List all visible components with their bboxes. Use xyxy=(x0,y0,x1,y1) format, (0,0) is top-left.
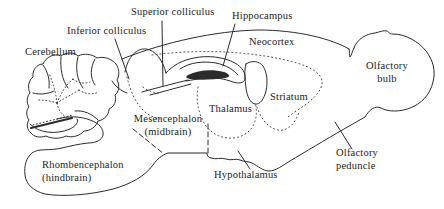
cerebellum-fold-line-1 xyxy=(61,57,68,88)
striatum-outline xyxy=(245,62,267,105)
cerebellum-fold-line-3 xyxy=(91,59,95,85)
colliculus-bump-outline xyxy=(125,49,166,73)
leader-line-hippocampus xyxy=(223,24,235,66)
label-rhombencephalon: Rhombencephalon(hindbrain) xyxy=(42,159,124,184)
label-striatum: Striatum xyxy=(270,91,308,104)
leader-line-superior-colliculus xyxy=(162,21,163,86)
label-inferior-colliculus: Inferior colliculus xyxy=(67,25,146,38)
cerebellum-arbor-dotted-7 xyxy=(57,103,66,117)
cerebellum-arbor-dotted-6 xyxy=(38,100,57,103)
cerebellum-arbor-dotted-4 xyxy=(73,79,90,83)
fornix-line-lower xyxy=(150,84,191,95)
cerebellum-fold-line-5 xyxy=(33,91,54,94)
fornix-line-upper xyxy=(142,80,188,92)
label-olfactory-bulb: Olfactorybulb xyxy=(361,60,413,85)
label-olfactory-peduncle: Olfactorypeduncle xyxy=(336,147,378,172)
label-cerebellum: Cerebellum xyxy=(25,46,76,59)
label-hypothalamus: Hypothalamus xyxy=(214,169,278,182)
cerebellum-dark-stroke xyxy=(31,118,72,128)
cortex-bulb-notch xyxy=(349,48,354,57)
label-superior-colliculus: Superior colliculus xyxy=(131,6,214,19)
cerebellar-peduncle-line xyxy=(112,81,127,93)
cerebellum-fold-line-4 xyxy=(43,65,49,88)
hypothalamus-dotted-boundary xyxy=(257,107,299,130)
label-hippocampus: Hippocampus xyxy=(232,10,293,23)
label-thalamus: Thalamus xyxy=(209,103,252,116)
cerebellum-fold-line-2 xyxy=(77,57,83,88)
leader-line-inferior-colliculus xyxy=(115,39,129,79)
label-mesencephalon: Mesencephalon(midbrain) xyxy=(132,113,204,138)
label-neocortex: Neocortex xyxy=(249,36,295,49)
cerebellum-arbor-dotted-5 xyxy=(79,90,99,94)
cerebellum-arbor-dotted-1 xyxy=(49,73,57,103)
brain-sagittal-diagram: Superior colliculus Inferior colliculus … xyxy=(0,0,444,209)
dentate-gyrus-fill xyxy=(186,70,229,79)
